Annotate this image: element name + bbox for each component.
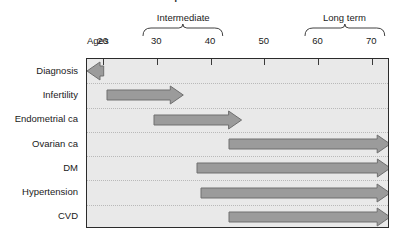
row-label-cvd: CVD xyxy=(58,210,78,221)
axis-tick-40 xyxy=(211,59,212,65)
row-separator xyxy=(87,180,388,181)
axis-tick-label-50: 50 xyxy=(249,35,279,46)
arrow-dm xyxy=(197,159,389,177)
axis-tick-label-60: 60 xyxy=(303,35,333,46)
axis-tick-label-20: 20 xyxy=(88,35,118,46)
row-separator xyxy=(87,205,388,206)
plot-area xyxy=(86,58,389,228)
arrow-endometrial-ca xyxy=(154,111,242,129)
row-separator xyxy=(87,132,388,133)
row-separator xyxy=(87,83,388,84)
axis-tick-label-30: 30 xyxy=(141,35,171,46)
arrow-ovarian-ca xyxy=(229,135,389,153)
row-separator xyxy=(87,108,388,109)
axis-tick-30 xyxy=(157,59,158,65)
axis-tick-60 xyxy=(318,59,319,65)
row-labels-column: DiagnosisInfertilityEndometrial caOvaria… xyxy=(0,0,82,236)
group-label-long-term: Long term xyxy=(304,12,386,23)
arrow-infertility xyxy=(107,86,183,104)
axis-tick-70 xyxy=(372,59,373,65)
axis-tick-label-70: 70 xyxy=(356,35,386,46)
row-label-infertility: Infertility xyxy=(43,89,78,100)
row-label-endometrial-ca: Endometrial ca xyxy=(15,113,78,124)
figure-root: consequences of PCOS IntermediateLong te… xyxy=(0,0,397,236)
arrow-hypertension xyxy=(201,184,389,202)
row-label-diagnosis: Diagnosis xyxy=(36,65,78,76)
group-label-intermediate: Intermediate xyxy=(142,12,224,23)
arrow-diagnosis xyxy=(87,62,104,80)
row-label-dm: DM xyxy=(63,162,78,173)
row-separator xyxy=(87,156,388,157)
axis-tick-label-40: 40 xyxy=(195,35,225,46)
row-label-ovarian-ca: Ovarian ca xyxy=(32,138,78,149)
axis-tick-50 xyxy=(264,59,265,65)
arrow-cvd xyxy=(229,208,389,226)
row-label-hypertension: Hypertension xyxy=(22,186,78,197)
